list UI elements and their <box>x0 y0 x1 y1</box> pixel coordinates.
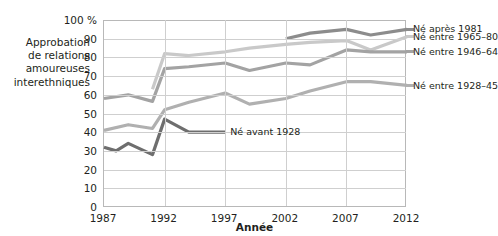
y-axis-tick-label: 10 <box>63 183 97 193</box>
x-gridline <box>165 20 166 206</box>
x-axis-tick-label: 1987 <box>79 212 127 224</box>
y-axis-tick-label: 70 <box>63 71 97 81</box>
x-axis-tick-label: 1992 <box>140 212 188 224</box>
y-gridline <box>104 170 406 171</box>
legend-label: Né entre 1928–45 <box>413 80 498 91</box>
y-gridline <box>104 39 406 40</box>
series-line <box>104 82 407 131</box>
y-gridline <box>104 188 406 189</box>
legend-label: Né entre 1946–64 <box>413 46 498 57</box>
y-axis-tick-label: 60 <box>63 90 97 100</box>
inline-series-label-ne-avant-1928: Né avant 1928 <box>230 126 300 137</box>
y-axis-tick-label: 80 <box>63 52 97 62</box>
y-gridline <box>104 151 406 152</box>
x-axis-tick-label: 2007 <box>321 212 369 224</box>
y-axis-tick-label: 30 <box>63 146 97 156</box>
y-axis-tick-label-100: 100 % <box>51 15 97 25</box>
x-axis-tick-label: 1997 <box>200 212 248 224</box>
y-gridline <box>104 76 406 77</box>
y-axis-tick-label: 90 <box>63 34 97 44</box>
y-axis-tick-label: 0 <box>63 202 97 212</box>
legend-label: Né entre 1965–80 <box>413 31 498 42</box>
x-gridline <box>286 20 287 206</box>
x-axis-tick-label: 2002 <box>261 212 309 224</box>
x-gridline <box>346 20 347 206</box>
y-gridline <box>104 114 406 115</box>
y-gridline <box>104 57 406 58</box>
y-axis-tick-label: 20 <box>63 165 97 175</box>
x-gridline <box>225 20 226 206</box>
plot-area <box>103 20 406 207</box>
y-axis-tick-label: 40 <box>63 127 97 137</box>
y-axis-tick-label: 50 <box>63 109 97 119</box>
x-axis-tick-label: 2012 <box>382 212 430 224</box>
y-gridline <box>104 95 406 96</box>
